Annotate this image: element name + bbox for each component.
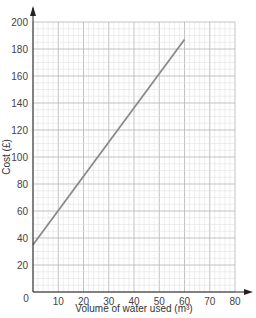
y-axis-label: Cost (£) xyxy=(1,139,12,175)
y-tick-label: 180 xyxy=(11,44,28,55)
x-axis-label: Volume of water used (m³) xyxy=(75,303,192,314)
y-tick-label: 160 xyxy=(11,71,28,82)
y-tick-label: 120 xyxy=(11,125,28,136)
x-axis-arrow-icon xyxy=(244,289,253,295)
grid xyxy=(33,22,235,292)
y-tick-label: 20 xyxy=(17,260,29,271)
y-tick-label: 200 xyxy=(11,17,28,28)
origin-label: 0 xyxy=(23,293,29,304)
y-tick-label: 60 xyxy=(17,206,29,217)
x-tick-label: 80 xyxy=(229,296,241,307)
y-tick-label: 100 xyxy=(11,152,28,163)
y-axis-arrow-icon xyxy=(30,6,36,16)
tick-labels: 1020304050607080204060801001201401601802… xyxy=(11,17,241,308)
y-tick-label: 40 xyxy=(17,233,29,244)
x-tick-label: 10 xyxy=(53,296,65,307)
y-tick-label: 80 xyxy=(17,179,29,190)
line-chart: 1020304050607080204060801001201401601802… xyxy=(0,0,256,318)
y-tick-label: 140 xyxy=(11,98,28,109)
x-tick-label: 70 xyxy=(204,296,216,307)
